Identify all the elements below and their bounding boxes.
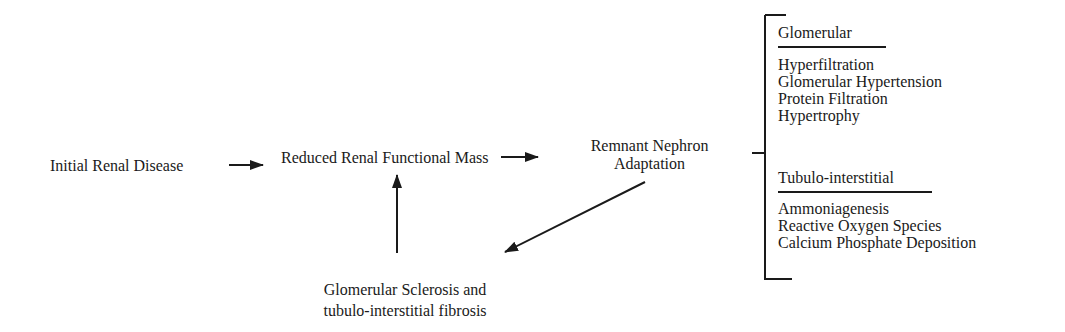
tubulo-header: Tubulo-interstitial: [778, 169, 932, 193]
glomerular-item: Protein Filtration: [778, 90, 942, 107]
glomerular-item: Glomerular Hypertension: [778, 73, 942, 90]
glomerular-group: Glomerular Hyperfiltration Glomerular Hy…: [778, 24, 942, 124]
glomerular-item: Hyperfiltration: [778, 56, 942, 73]
glomerular-item: Hypertrophy: [778, 107, 942, 124]
node-initial-renal-disease: Initial Renal Disease: [50, 157, 183, 175]
arrow-remnant-to-sclerosis: [505, 182, 645, 252]
tubulo-item: Reactive Oxygen Species: [778, 217, 976, 234]
node-remnant-nephron-line1: Remnant Nephron: [552, 137, 747, 155]
node-remnant-nephron-line2: Adaptation: [552, 155, 747, 173]
node-sclerosis-line1: Glomerular Sclerosis and: [280, 281, 530, 299]
tubulo-item: Ammoniagenesis: [778, 200, 976, 217]
glomerular-header: Glomerular: [778, 24, 886, 48]
node-sclerosis-line2: tubulo-interstitial fibrosis: [280, 302, 530, 320]
node-reduced-renal-functional-mass: Reduced Renal Functional Mass: [281, 149, 489, 167]
tubulo-group: Tubulo-interstitial Ammoniagenesis React…: [778, 169, 976, 251]
tubulo-item: Calcium Phosphate Deposition: [778, 234, 976, 251]
